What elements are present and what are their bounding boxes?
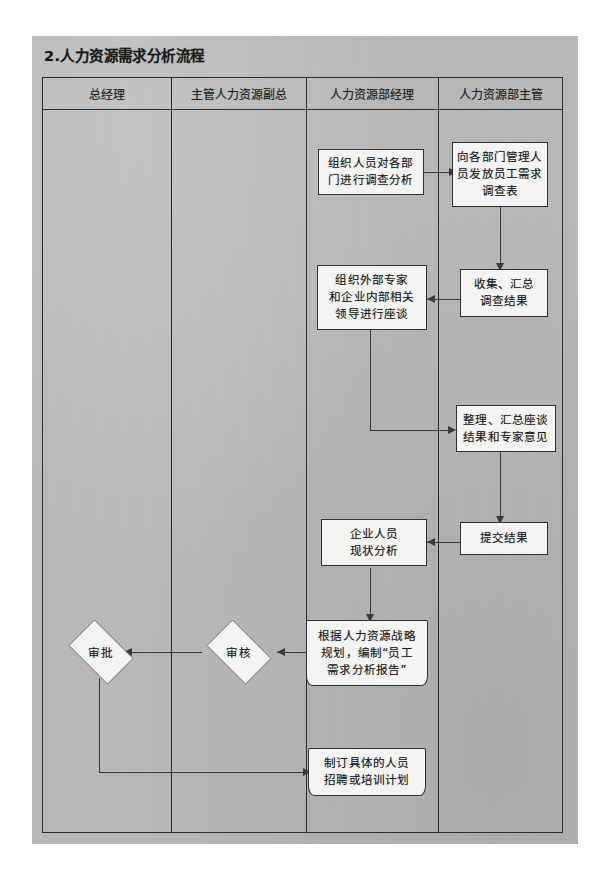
node-expert-internal-discussion: 组织外部专家 和企业内部相关 领导进行座谈 (317, 265, 427, 330)
edge-n2-n4-line (500, 207, 501, 269)
node-approval-decision: 审批 (62, 626, 140, 678)
node-line: 领导进行座谈 (329, 306, 414, 323)
page-title: 2.人力资源需求分析流程 (44, 44, 204, 65)
node-review-decision: 审核 (200, 626, 278, 678)
edge-n3-n5-hline (370, 430, 452, 431)
column-header-hr-vice-president: 主管人力资源副总 (171, 85, 306, 105)
column-divider-2 (306, 78, 307, 832)
node-line: 制订具体的人员 (324, 755, 409, 772)
node-line: 组织外部专家 (329, 272, 414, 289)
column-header-general-manager: 总经理 (43, 85, 171, 105)
edge-n6-n7-arrowhead (427, 538, 435, 546)
node-line: 招聘或培训计划 (324, 772, 409, 789)
node-line: 提交结果 (480, 530, 529, 547)
node-organize-staff-survey: 组织人员对各部 门进行调查分析 (318, 149, 424, 195)
node-line: 和企业内部相关 (329, 289, 414, 306)
edge-n1-n2-line (424, 172, 452, 173)
edge-n10-n11-hline (99, 772, 307, 773)
node-line: 结果和专家意见 (463, 429, 548, 446)
node-organize-discussion-expert-opinions: 整理、汇总座谈 结果和专家意见 (456, 405, 556, 452)
edge-n4-n3-arrowhead (427, 295, 435, 303)
node-line: 规划，编制“员工 (318, 645, 416, 662)
node-current-staff-analysis: 企业人员 现状分析 (321, 519, 427, 566)
column-header-hr-supervisor: 人力资源部主管 (438, 85, 564, 105)
edge-n10-n11-vline (99, 678, 100, 773)
node-submit-results: 提交结果 (460, 522, 548, 555)
column-header-hr-manager: 人力资源部经理 (306, 85, 438, 105)
column-divider-3 (438, 78, 439, 832)
node-recruitment-training-plan: 制订具体的人员 招聘或培训计划 (308, 748, 426, 796)
node-staff-demand-analysis-report: 根据人力资源战略 规划，编制“员工 需求分析报告” (306, 620, 428, 686)
node-collect-summarize-results: 收集、汇总 调查结果 (460, 269, 548, 317)
edge-n3-n5-arrowhead (448, 426, 456, 434)
diamond-label: 审批 (88, 644, 114, 660)
node-line: 根据人力资源战略 (318, 628, 416, 645)
node-line: 整理、汇总座谈 (463, 412, 548, 429)
column-divider-1 (171, 78, 172, 832)
edge-n5-n6-line (500, 452, 501, 522)
edge-n8-n9-arrowhead (277, 648, 285, 656)
node-line: 现状分析 (350, 543, 399, 560)
node-line: 员发放员工需求 (457, 166, 542, 183)
node-line: 组织人员对各部 (328, 155, 413, 172)
node-line: 向各部门管理人 (457, 149, 542, 166)
node-distribute-demand-survey: 向各部门管理人 员发放员工需求 调查表 (452, 142, 548, 207)
edge-n7-n8-line (370, 568, 371, 620)
node-line: 调查结果 (474, 293, 535, 310)
node-line: 调查表 (457, 183, 542, 200)
diamond-label: 审核 (226, 644, 252, 660)
node-line: 门进行调查分析 (328, 172, 413, 189)
node-line: 需求分析报告” (318, 662, 416, 679)
edge-n3-n5-vline (370, 330, 371, 431)
node-line: 企业人员 (350, 526, 399, 543)
header-divider (43, 109, 562, 110)
node-line: 收集、汇总 (474, 276, 535, 293)
